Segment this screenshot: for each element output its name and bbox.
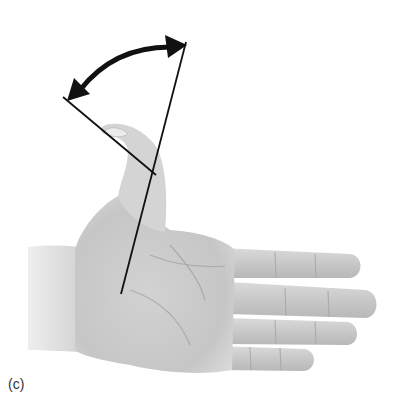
fingers <box>218 248 377 371</box>
hand-illustration <box>0 0 403 408</box>
figure-canvas: (c) <box>0 0 403 408</box>
motion-arc-arrow <box>80 47 175 90</box>
arrowhead-right-icon <box>165 35 187 58</box>
panel-label: (c) <box>8 376 24 392</box>
